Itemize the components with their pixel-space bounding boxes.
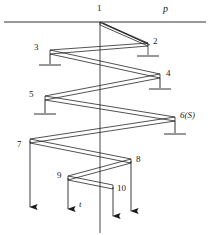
axis-label-t: t: [79, 200, 82, 209]
diagram-canvas: 1 2 3 4 5 6(S) 7 8 9 10 p t: [0, 0, 210, 235]
node-label-10: 10: [117, 184, 126, 193]
top-branch-lines: [101, 23, 150, 45]
node-label-3: 3: [34, 43, 39, 52]
node-label-1: 1: [97, 4, 102, 13]
node-label-5: 5: [29, 90, 34, 99]
zigzag-path-upper: [30, 22, 175, 185]
node-label-6: 6(S): [180, 111, 195, 120]
zigzag-network-svg: [0, 0, 210, 235]
node-label-8: 8: [136, 155, 141, 164]
node-label-4: 4: [166, 69, 171, 78]
node-label-2: 2: [153, 37, 158, 46]
node-label-9: 9: [57, 171, 62, 180]
boundary-label-p: p: [163, 4, 168, 14]
node-label-7: 7: [17, 140, 22, 149]
